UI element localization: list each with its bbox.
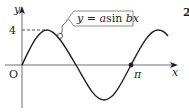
curve-marker-circle xyxy=(57,33,62,38)
pi-intercept-point xyxy=(129,63,134,68)
y-tick-4-label: 4 xyxy=(9,24,16,37)
origin-label: O xyxy=(9,68,18,81)
sine-graph: y 4 O π x y = asin bx 2 xyxy=(0,0,189,112)
curve-equation-label: y = asin bx xyxy=(76,12,140,25)
y-axis-label: y xyxy=(13,3,21,16)
question-number-partial: 2 xyxy=(183,6,189,19)
leader-line xyxy=(61,18,70,34)
x-tick-pi-label: π xyxy=(133,68,142,81)
x-axis-label: x xyxy=(172,66,179,79)
